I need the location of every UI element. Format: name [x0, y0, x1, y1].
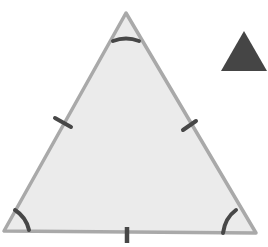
triangle-icon	[221, 31, 267, 71]
equilateral-triangle-diagram	[0, 0, 268, 247]
main-triangle	[4, 13, 256, 233]
